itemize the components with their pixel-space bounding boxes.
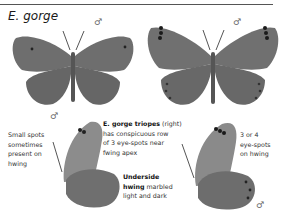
caption-eye-spots: 3 or 4 eye-spots on hwing (240, 130, 271, 159)
butterfly-upperside-left-illustration (8, 26, 138, 108)
caption-triopes: E. gorge triopes (right) has conspicuous… (103, 119, 182, 157)
caption-underside: Underside hwing marbled light and dark (123, 172, 173, 201)
header-rule (0, 4, 273, 5)
butterfly-upperside-right-illustration (145, 22, 281, 108)
caption-small-spots: Small spots sometimes present on hwing (8, 130, 44, 168)
species-title: E. gorge (8, 9, 58, 23)
